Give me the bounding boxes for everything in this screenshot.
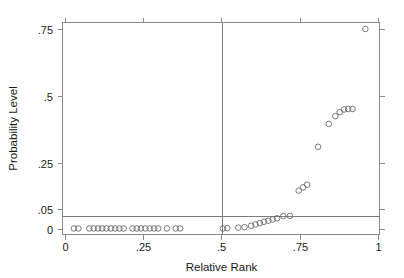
data-point (235, 225, 241, 231)
plot-frame (63, 23, 380, 235)
data-point-group (71, 26, 368, 231)
plot-canvas: 0 .25 .5 .75 1 .75 .5 .25 .05 0 Relative… (0, 0, 404, 278)
x-tick-labels: 0 .25 .5 .75 1 (62, 241, 381, 253)
y-axis-ticks (58, 30, 385, 230)
y-tick-label: .05 (38, 204, 53, 216)
data-point (155, 226, 161, 232)
x-axis-title: Relative Rank (186, 261, 258, 273)
y-tick-label: .75 (38, 24, 53, 36)
data-point (304, 182, 310, 188)
data-point (242, 224, 248, 230)
data-point (315, 144, 321, 150)
y-tick-label: .5 (44, 91, 53, 103)
x-tick-label: 0 (62, 241, 68, 253)
data-point (300, 185, 306, 191)
data-point (326, 121, 332, 127)
y-axis-title: Probability Level (7, 86, 19, 170)
scatter-plot-figure: 0 .25 .5 .75 1 .75 .5 .25 .05 0 Relative… (0, 0, 404, 278)
x-tick-label: .75 (293, 241, 308, 253)
y-tick-label: .25 (38, 158, 53, 170)
y-tick-labels: .75 .5 .25 .05 0 (38, 24, 53, 236)
x-tick-label: 1 (375, 241, 381, 253)
y-tick-label: 0 (47, 224, 53, 236)
x-tick-label: .25 (136, 241, 151, 253)
data-point (363, 26, 369, 32)
x-tick-label: .5 (217, 241, 226, 253)
data-point (164, 226, 170, 232)
